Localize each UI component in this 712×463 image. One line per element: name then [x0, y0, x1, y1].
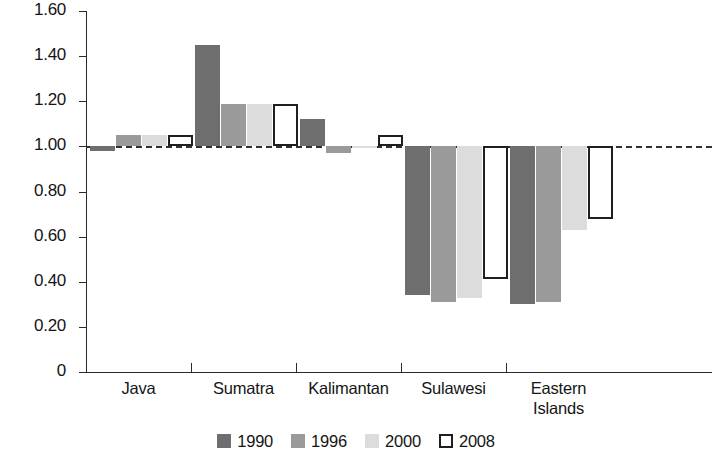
y-axis-tick [79, 282, 86, 283]
y-axis-tick [79, 101, 86, 102]
x-axis-category-label-line: Sulawesi [401, 378, 506, 398]
bar-java-1990 [90, 146, 115, 151]
legend-label-2000: 2000 [385, 432, 421, 451]
y-axis-tick [79, 237, 86, 238]
legend-label-2008: 2008 [459, 432, 495, 451]
y-axis-tick-label: 1.20 [8, 90, 66, 110]
bar-kalimantan-1996 [326, 146, 351, 153]
bar-sumatra-2000 [247, 104, 272, 147]
y-axis-tick [79, 192, 86, 193]
legend-item-1990: 1990 [217, 431, 273, 451]
bar-java-1996 [116, 135, 141, 146]
bar-sumatra-1990 [195, 45, 220, 147]
x-axis-category-label-line: Kalimantan [296, 378, 401, 398]
bar-java-2008 [168, 135, 193, 146]
legend-swatch-2008 [439, 434, 453, 448]
y-axis-tick-label: 0.40 [8, 271, 66, 291]
legend-swatch-1996 [291, 434, 305, 448]
legend-item-1996: 1996 [291, 431, 347, 451]
x-axis-category-separator [401, 363, 402, 373]
y-axis-tick-label: 1.00 [8, 135, 66, 155]
x-axis-category-separator [296, 363, 297, 373]
legend-item-2008: 2008 [439, 431, 495, 451]
baseline-reference-line [86, 146, 712, 148]
gdp-relative-to-average-bar-chart: GDP relative to average 00.200.400.600.8… [0, 0, 712, 463]
bar-sulawesi-2008 [483, 146, 508, 279]
bar-sumatra-1996 [221, 104, 246, 147]
bar-kalimantan-1990 [300, 119, 325, 146]
y-axis-tick-label: 0.20 [8, 316, 66, 336]
bar-eastern-islands-1990 [510, 146, 535, 304]
x-axis-category-label-line: Eastern [506, 378, 611, 398]
bar-sulawesi-1996 [431, 146, 456, 302]
y-axis-tick-label: 0 [8, 361, 66, 381]
x-axis-category-label-java: Java [86, 378, 191, 398]
y-axis-tick [79, 56, 86, 57]
bar-kalimantan-2008 [378, 135, 403, 146]
legend-label-1990: 1990 [237, 432, 273, 451]
chart-legend: 1990199620002008 [0, 430, 712, 451]
y-axis-line [86, 11, 87, 373]
x-axis-line [86, 372, 712, 373]
y-axis-tick [79, 327, 86, 328]
x-axis-category-label-line: Islands [506, 398, 611, 418]
bar-sulawesi-2000 [457, 146, 482, 297]
legend-item-2000: 2000 [365, 431, 421, 451]
x-axis-category-separator [506, 363, 507, 373]
x-axis-category-separator [191, 363, 192, 373]
bar-kalimantan-2000 [352, 146, 377, 148]
y-axis-tick-label: 1.40 [8, 45, 66, 65]
x-axis-category-label-sulawesi: Sulawesi [401, 378, 506, 398]
bar-sulawesi-1990 [405, 146, 430, 295]
y-axis-tick-label: 0.80 [8, 181, 66, 201]
x-axis-category-label-kalimantan: Kalimantan [296, 378, 401, 398]
y-axis-tick-label: 1.60 [8, 0, 66, 20]
x-axis-category-label-line: Sumatra [191, 378, 296, 398]
x-axis-category-label-eastern-islands: EasternIslands [506, 378, 611, 418]
bar-eastern-islands-1996 [536, 146, 561, 302]
y-axis-tick [79, 372, 86, 373]
y-axis-tick-label: 0.60 [8, 226, 66, 246]
y-axis-tick [79, 146, 86, 147]
legend-swatch-1990 [217, 434, 231, 448]
bar-eastern-islands-2008 [588, 146, 613, 218]
bar-java-2000 [142, 135, 167, 146]
y-axis-tick [79, 11, 86, 12]
x-axis-category-label-line: Java [86, 378, 191, 398]
x-axis-category-label-sumatra: Sumatra [191, 378, 296, 398]
legend-swatch-2000 [365, 434, 379, 448]
legend-label-1996: 1996 [311, 432, 347, 451]
bar-eastern-islands-2000 [562, 146, 587, 229]
bar-sumatra-2008 [273, 104, 298, 147]
